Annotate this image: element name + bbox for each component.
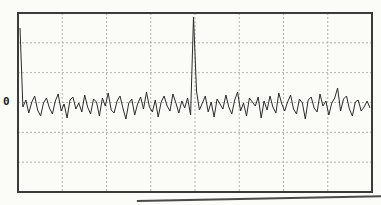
- spectrum-plot: [0, 0, 381, 205]
- scanned-scope-screenshot: 0: [0, 0, 381, 205]
- noise-trace: [20, 17, 370, 119]
